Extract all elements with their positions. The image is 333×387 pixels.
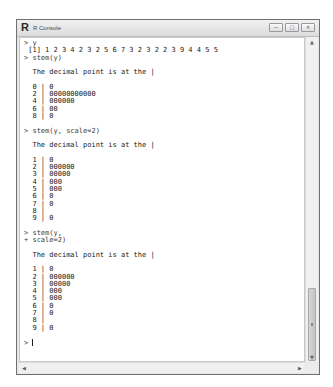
scroll-up-icon[interactable]: ▲: [306, 37, 318, 47]
console-input-line: > stem(y, scale=2): [24, 128, 218, 135]
console-prompt-line[interactable]: >: [24, 339, 218, 346]
prompt-symbol: >: [24, 339, 32, 347]
console-output-line: The decimal point is at the |: [24, 142, 218, 149]
vertical-scroll-thumb[interactable]: [308, 288, 316, 361]
window-controls: — □ ✕: [269, 23, 315, 32]
console-lines: > y [1] 1 2 3 4 2 3 2 5 6 7 3 2 3 2 2 3 …: [24, 40, 218, 346]
close-icon: ✕: [302, 24, 314, 31]
grip-icon: [311, 323, 313, 326]
horizontal-scrollbar[interactable]: ◀ ▶: [19, 362, 305, 373]
scroll-right-icon[interactable]: ▶: [295, 363, 305, 373]
vertical-scrollbar[interactable]: ▲ ▼: [305, 37, 318, 362]
maximize-icon: □: [286, 24, 298, 31]
minimize-icon: —: [270, 24, 282, 31]
console-blank-line: [24, 332, 218, 339]
console-output-line: 9 | 0: [24, 325, 218, 332]
console-output-line: The decimal point is at the |: [24, 69, 218, 76]
scroll-left-icon[interactable]: ◀: [19, 363, 29, 373]
console-output-line: 7 | 0: [24, 201, 218, 208]
console-output-line: 7 | 0: [24, 310, 218, 317]
r-console-window: R R Console — □ ✕ > y [1] 1 2 3 4 2 3 2 …: [16, 19, 320, 375]
console-output-line: 8 | 0: [24, 113, 218, 120]
minimize-button[interactable]: —: [269, 23, 283, 32]
r-logo-icon: R: [21, 22, 31, 33]
close-button[interactable]: ✕: [301, 23, 315, 32]
console-input-line: > stem(y): [24, 55, 218, 62]
console-output-area[interactable]: > y [1] 1 2 3 4 2 3 2 5 6 7 3 2 3 2 2 3 …: [19, 37, 305, 362]
console-output-line: The decimal point is at the |: [24, 252, 218, 259]
text-cursor: [32, 339, 33, 346]
window-title: R Console: [33, 23, 61, 33]
title-bar[interactable]: R R Console — □ ✕: [17, 20, 319, 37]
maximize-button[interactable]: □: [285, 23, 299, 32]
console-input-line: + scale=2): [24, 237, 218, 244]
scroll-down-icon[interactable]: ▼: [306, 352, 318, 362]
size-grip: [306, 363, 318, 373]
console-output-line: 9 | 0: [24, 215, 218, 222]
